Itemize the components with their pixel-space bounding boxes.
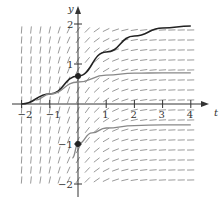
- x-tick-label: −2: [18, 109, 33, 120]
- y-axis-arrow-icon: [75, 6, 81, 14]
- y-tick-label: 1: [67, 59, 73, 70]
- slope-field-chart: ty−2−1123421−1−2: [0, 0, 222, 205]
- x-tick-label: −1: [46, 109, 61, 120]
- initial-point: [75, 73, 81, 79]
- y-tick-label: −2: [58, 179, 73, 190]
- x-tick-label: 3: [159, 109, 165, 120]
- initial-point: [75, 141, 81, 147]
- t-axis-arrow-icon: [201, 101, 209, 107]
- solution-curve: [36, 73, 191, 100]
- x-tick-label: 1: [102, 109, 108, 120]
- x-tick-label: 2: [130, 109, 136, 120]
- solution-curve: [22, 26, 191, 104]
- slope-field: [21, 26, 194, 183]
- y-tick-label: 2: [67, 19, 73, 30]
- y-tick-label: −1: [58, 139, 73, 150]
- x-axis-label: t: [214, 107, 219, 118]
- x-tick-label: 4: [187, 109, 193, 120]
- y-axis-label: y: [67, 3, 74, 14]
